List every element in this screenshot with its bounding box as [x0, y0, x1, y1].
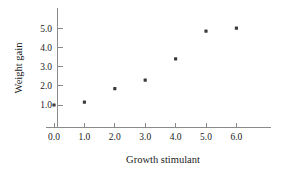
- y-tick-label: 2.0: [40, 81, 52, 91]
- data-point-marker: [204, 29, 207, 32]
- data-point-marker: [113, 87, 116, 90]
- x-tick-label: 0.0: [48, 132, 60, 142]
- x-tick-label: 3.0: [139, 132, 151, 142]
- x-tick-label: 2.0: [109, 132, 121, 142]
- x-tick-label: 4.0: [170, 132, 182, 142]
- y-axis-title: Weight gain: [13, 42, 24, 94]
- x-tick-label-group: 0.01.02.03.04.05.06.0: [48, 132, 243, 142]
- y-tick-label-group: 1.02.03.04.05.0: [40, 24, 52, 111]
- data-point-group: [52, 27, 238, 107]
- axes-group: [46, 8, 271, 128]
- data-point-marker: [235, 27, 238, 30]
- y-tick-group: [58, 28, 63, 105]
- x-tick-label: 5.0: [200, 132, 212, 142]
- y-tick-label: 4.0: [40, 43, 52, 53]
- data-point-marker: [174, 57, 177, 60]
- scatter-plot-figure: 1.02.03.04.05.0 0.01.02.03.04.05.06.0 Gr…: [0, 0, 284, 170]
- y-tick-label: 3.0: [40, 62, 52, 72]
- plot-canvas: 1.02.03.04.05.0 0.01.02.03.04.05.06.0 Gr…: [0, 0, 284, 170]
- y-tick-label: 1.0: [40, 100, 52, 110]
- x-tick-label: 6.0: [230, 132, 242, 142]
- data-point-marker: [83, 101, 86, 104]
- data-point-marker: [144, 78, 147, 81]
- x-tick-label: 1.0: [78, 132, 90, 142]
- x-axis-title: Growth stimulant: [126, 154, 200, 165]
- x-tick-group: [54, 123, 236, 128]
- y-tick-label: 5.0: [40, 24, 52, 34]
- data-point-marker: [52, 103, 55, 106]
